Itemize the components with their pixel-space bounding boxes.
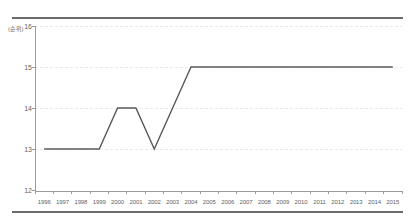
x-axis-tick-marks xyxy=(35,191,402,194)
gridlines xyxy=(35,26,402,149)
plot-area xyxy=(0,0,415,223)
line-chart-figure: (순위) 1213141516 199619971998199920002001… xyxy=(0,0,415,223)
